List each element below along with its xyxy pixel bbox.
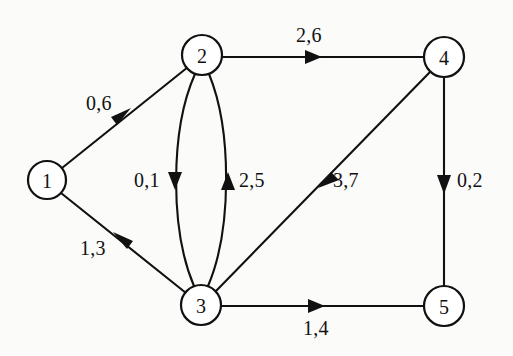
node-4-label: 4 [439, 47, 449, 69]
edge-line-2-3 [176, 74, 195, 286]
edge-label-4-5: 0,2 [457, 170, 483, 190]
node-2[interactable]: 2 [182, 35, 222, 75]
edge-1-to-2 [62, 67, 188, 168]
node-4[interactable]: 4 [424, 37, 464, 77]
edge-label-4-3: 3,7 [333, 170, 359, 190]
arrowhead-2-3 [168, 172, 182, 190]
edge-3-to-5 [221, 299, 424, 313]
arrowhead-3-1 [113, 232, 133, 249]
arrowhead-3-2 [221, 172, 235, 190]
edge-label-1-2: 0,6 [86, 93, 112, 113]
node-5[interactable]: 5 [424, 286, 464, 326]
node-3[interactable]: 3 [181, 285, 221, 325]
edge-line-1-2 [62, 67, 188, 168]
edge-label-3-5: 1,4 [303, 318, 329, 338]
node-3-label: 3 [196, 295, 206, 317]
edge-4-to-5 [437, 77, 451, 286]
arrowhead-4-5 [437, 175, 451, 194]
node-2-label: 2 [197, 45, 207, 67]
edge-label-2-3: 0,1 [134, 170, 160, 190]
graph-diagram: 1 2 3 4 5 0,6 1,3 2,6 0,1 2,5 3,7 0,2 1,… [0, 0, 513, 356]
node-5-label: 5 [439, 296, 449, 318]
arrowhead-3-5 [308, 299, 325, 313]
edge-line-3-2 [208, 74, 226, 286]
edge-label-3-1: 1,3 [80, 238, 106, 258]
node-1-label: 1 [42, 170, 52, 192]
edge-label-2-4: 2,6 [296, 25, 322, 45]
edge-2-to-3 [168, 74, 195, 286]
edge-3-to-2 [208, 74, 235, 286]
arrowhead-2-4 [305, 50, 322, 64]
arrowhead-1-2 [111, 108, 131, 125]
edge-2-to-4 [222, 50, 424, 64]
edge-label-3-2: 2,5 [239, 170, 265, 190]
node-1[interactable]: 1 [28, 161, 66, 199]
